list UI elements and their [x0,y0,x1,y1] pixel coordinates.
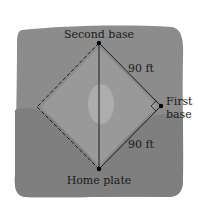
side-length-upper-label: 90 ft [128,63,154,75]
first-base-label-line2: base [166,109,192,121]
baseball-diamond-figure: Second base 90 ft First base 90 ft Home … [0,0,198,207]
pitchers-mound [88,84,114,124]
home-plate-label: Home plate [67,175,132,187]
first-base-label-line1: First [166,96,192,108]
home-plate-point [97,167,101,171]
first-base-point [159,104,163,108]
second-base-point [97,41,101,45]
second-base-label: Second base [64,29,134,41]
side-length-lower-label: 90 ft [128,139,154,151]
